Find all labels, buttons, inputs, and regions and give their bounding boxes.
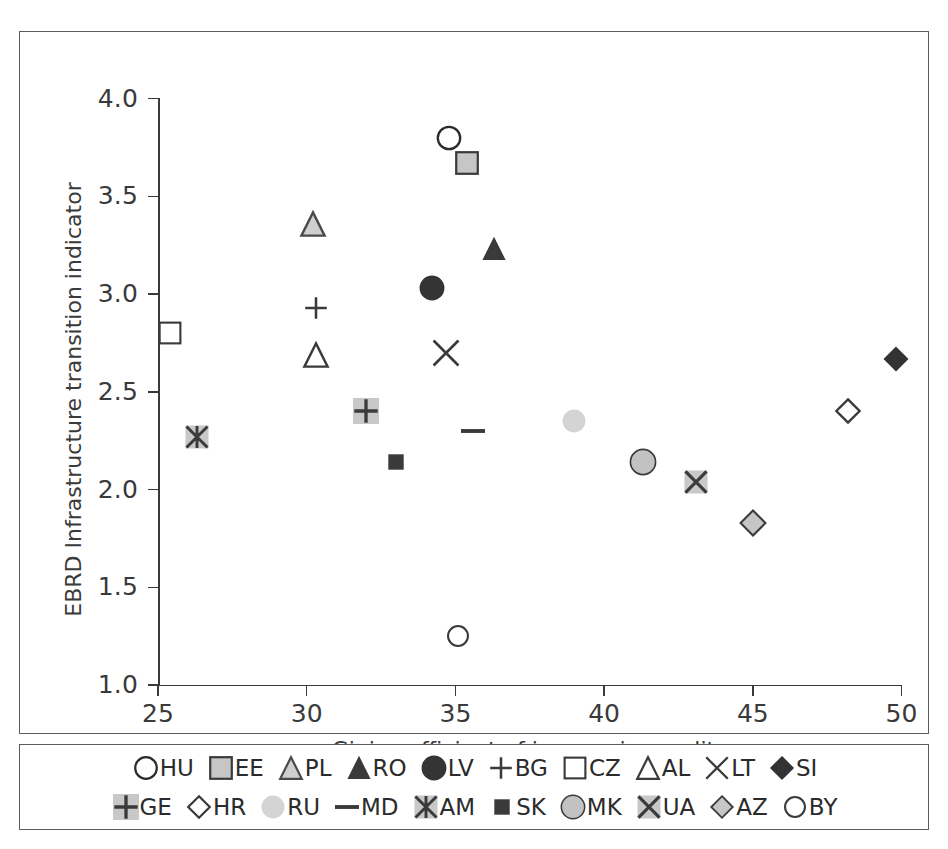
legend-marker-x-cross-icon (704, 755, 730, 781)
legend-label: MD (361, 796, 399, 819)
data-point-ru[interactable] (562, 409, 586, 433)
legend-label: AM (440, 796, 476, 819)
y-axis-tick (148, 196, 158, 198)
legend-item-hu[interactable]: HU (133, 755, 194, 781)
data-point-si[interactable] (882, 345, 909, 372)
legend-item-mk[interactable]: MK (560, 794, 622, 820)
data-point-ua[interactable] (685, 470, 708, 493)
data-point-ee[interactable] (454, 150, 480, 176)
legend-marker-circle-filled-icon (260, 794, 286, 820)
legend-label: AZ (736, 796, 768, 819)
x-axis-tick-label: 25 (118, 700, 198, 728)
plot-frame: 1.01.52.02.53.03.54.0 253035404550 Gini … (19, 31, 929, 734)
legend-label: HU (160, 757, 194, 780)
data-point-bg[interactable] (303, 295, 329, 321)
data-point-lv[interactable] (419, 275, 445, 301)
y-axis-title: EBRD Infrastructure transition indicator (61, 105, 86, 695)
legend-item-lv[interactable]: LV (421, 755, 474, 781)
legend-marker-diamond-open-icon (186, 794, 212, 820)
legend-item-pl[interactable]: PL (278, 755, 332, 781)
y-axis-tick (148, 98, 158, 100)
legend-item-si[interactable]: SI (769, 755, 817, 781)
y-axis-tick (148, 391, 158, 393)
x-axis-tick-label: 30 (267, 700, 347, 728)
legend-marker-asterisk-boxed-icon (413, 794, 439, 820)
x-axis-tick (752, 685, 754, 696)
data-point-az[interactable] (738, 508, 768, 538)
legend-label: RU (287, 796, 320, 819)
legend-label: EE (235, 757, 264, 780)
data-point-hr[interactable] (834, 397, 862, 425)
legend-item-by[interactable]: BY (782, 794, 838, 820)
legend-row: GEHRRUMDAMSKMKUAAZBY (20, 787, 930, 827)
legend-marker-triangle-filled-icon (278, 755, 304, 781)
legend-marker-square-filled-icon (489, 794, 515, 820)
legend-item-cz[interactable]: CZ (562, 755, 621, 781)
y-axis-line (158, 98, 160, 686)
y-axis-tick (148, 587, 158, 589)
data-point-sk[interactable] (387, 454, 404, 471)
data-point-hu[interactable] (436, 124, 463, 151)
scatter-chart-figure: 1.01.52.02.53.03.54.0 253035404550 Gini … (0, 0, 948, 849)
x-axis-tick (603, 685, 605, 696)
x-axis-line (158, 685, 902, 687)
legend-marker-circle-open-icon (133, 755, 159, 781)
legend-row: HUEEPLROLVBGCZALLTSI (20, 748, 930, 788)
legend-label: SI (796, 757, 817, 780)
data-point-am[interactable] (185, 425, 208, 448)
legend-marker-x-boxed-icon (636, 794, 662, 820)
legend: HUEEPLROLVBGCZALLTSI GEHRRUMDAMSKMKUAAZB… (19, 744, 929, 830)
legend-marker-square-open-icon (562, 755, 588, 781)
legend-label: CZ (589, 757, 621, 780)
legend-label: HR (213, 796, 246, 819)
legend-marker-plus-icon (488, 755, 514, 781)
legend-item-ro[interactable]: RO (346, 755, 407, 781)
legend-label: MK (587, 796, 622, 819)
legend-label: PL (305, 757, 332, 780)
x-axis-tick (157, 685, 159, 696)
legend-marker-circle-open-icon (782, 794, 808, 820)
legend-item-bg[interactable]: BG (488, 755, 548, 781)
legend-item-ua[interactable]: UA (636, 794, 696, 820)
legend-item-sk[interactable]: SK (489, 794, 546, 820)
data-point-ro[interactable] (482, 237, 506, 261)
legend-item-al[interactable]: AL (635, 755, 691, 781)
legend-marker-circle-filled-icon (421, 755, 447, 781)
y-axis-tick (148, 489, 158, 491)
legend-marker-square-filled-icon (208, 755, 234, 781)
data-point-cz[interactable] (157, 321, 182, 346)
legend-item-lt[interactable]: LT (704, 755, 755, 781)
legend-item-ge[interactable]: GE (113, 794, 172, 820)
legend-label: RO (373, 757, 407, 780)
legend-label: BY (809, 796, 838, 819)
legend-item-md[interactable]: MD (334, 794, 399, 820)
x-axis-tick-label: 45 (713, 700, 793, 728)
x-axis-tick-label: 35 (415, 700, 495, 728)
data-point-mk[interactable] (629, 448, 657, 476)
legend-marker-circle-filled-icon (560, 794, 586, 820)
legend-item-am[interactable]: AM (413, 794, 476, 820)
legend-label: UA (663, 796, 696, 819)
data-point-by[interactable] (446, 624, 470, 648)
legend-label: SK (516, 796, 546, 819)
x-axis-tick-label: 50 (862, 700, 942, 728)
data-point-ge[interactable] (353, 398, 379, 424)
legend-marker-diamond-filled-icon (769, 755, 795, 781)
data-point-al[interactable] (302, 341, 330, 369)
data-point-lt[interactable] (431, 338, 461, 368)
data-point-md[interactable] (461, 419, 485, 443)
legend-item-az[interactable]: AZ (709, 794, 768, 820)
x-axis-tick (901, 685, 903, 696)
legend-marker-diamond-filled-icon (709, 794, 735, 820)
data-point-pl[interactable] (299, 210, 327, 238)
legend-marker-triangle-open-icon (635, 755, 661, 781)
legend-item-hr[interactable]: HR (186, 794, 246, 820)
legend-label: LV (448, 757, 474, 780)
legend-label: GE (140, 796, 172, 819)
legend-marker-dash-icon (334, 794, 360, 820)
legend-marker-plus-boxed-icon (113, 794, 139, 820)
legend-label: AL (662, 757, 691, 780)
y-axis-tick (148, 293, 158, 295)
legend-item-ru[interactable]: RU (260, 794, 320, 820)
legend-item-ee[interactable]: EE (208, 755, 264, 781)
